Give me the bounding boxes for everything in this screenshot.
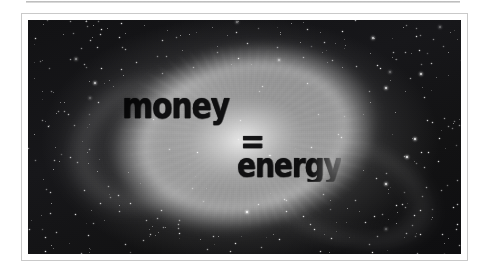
film-grain-overlay [28,20,461,254]
top-divider-rule [26,1,460,3]
photo-frame: money = energy [21,13,468,261]
nebula-photograph: money = energy [28,20,461,254]
